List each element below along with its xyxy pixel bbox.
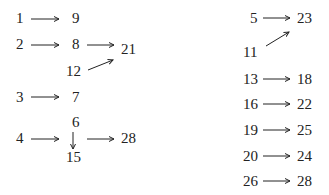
arrows-layer [0,0,329,195]
node: 1 [16,11,24,26]
node: 3 [16,90,24,105]
node: 23 [297,11,312,26]
node: 11 [243,45,257,60]
node: 12 [66,64,81,79]
node: 13 [243,72,258,87]
node: 22 [297,97,312,112]
node: 26 [243,174,258,189]
node: 8 [72,37,80,52]
arrow-12-21 [88,60,113,70]
node: 20 [243,149,258,164]
node: 25 [297,123,312,138]
node: 28 [121,131,136,146]
node: 16 [243,97,258,112]
node: 5 [250,11,258,26]
node: 2 [16,37,24,52]
node: 9 [72,11,80,26]
node: 4 [16,131,24,146]
node: 15 [66,150,81,165]
node: 28 [297,174,312,189]
arrow-11-23 [266,32,289,46]
node: 7 [72,90,80,105]
node: 6 [72,115,80,130]
node: 24 [297,149,312,164]
node: 19 [243,123,258,138]
node: 21 [121,42,136,57]
node: 18 [297,72,312,87]
